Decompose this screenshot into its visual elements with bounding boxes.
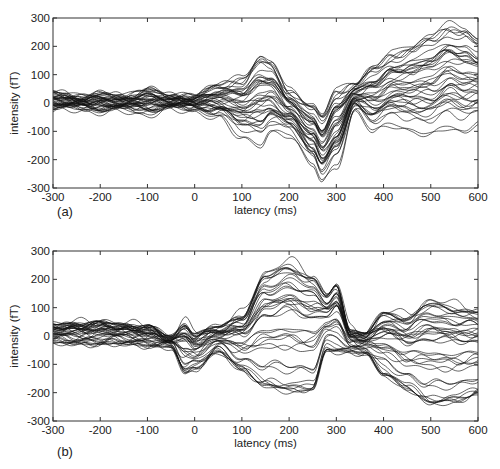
figure: -300-200-1000100200300400500600-300-200-…	[0, 0, 500, 469]
x-tick-label: 400	[374, 424, 393, 436]
x-tick-label: 500	[421, 191, 440, 203]
y-tick-label: 100	[31, 302, 50, 314]
y-tick-label: 300	[31, 245, 50, 257]
panel-label: (b)	[57, 444, 73, 459]
channel-trace	[53, 340, 478, 405]
y-tick-label: 200	[31, 273, 50, 285]
y-tick-label: -300	[27, 182, 50, 194]
channel-trace	[53, 104, 478, 174]
x-tick-label: 300	[327, 191, 346, 203]
x-tick-label: 500	[421, 424, 440, 436]
channel-trace	[53, 268, 478, 336]
x-tick-label: 200	[280, 191, 299, 203]
x-tick-label: 0	[191, 424, 197, 436]
x-tick-label: -200	[89, 191, 112, 203]
channel-trace	[53, 340, 478, 402]
y-tick-label: -100	[27, 125, 50, 137]
x-tick-label: -100	[136, 191, 159, 203]
x-tick-label: 600	[468, 191, 487, 203]
x-tick-label: 100	[232, 424, 251, 436]
x-tick-label: -100	[136, 424, 159, 436]
y-tick-label: 200	[31, 40, 50, 52]
x-tick-label: 400	[374, 191, 393, 203]
x-axis-label: latency (ms)	[234, 437, 297, 449]
x-tick-label: 0	[191, 191, 197, 203]
panel-label: (a)	[57, 204, 73, 219]
channel-trace	[53, 264, 478, 337]
y-axis-label: intensity (fT)	[8, 71, 20, 134]
x-tick-label: 100	[232, 191, 251, 203]
x-tick-label: -200	[89, 424, 112, 436]
x-axis-label: latency (ms)	[234, 204, 297, 216]
y-tick-label: 0	[44, 330, 50, 342]
y-tick-label: -200	[27, 387, 50, 399]
y-tick-label: -100	[27, 358, 50, 370]
panel-b: -300-200-1000100200300400500600-300-200-…	[8, 245, 488, 459]
channel-trace	[53, 340, 478, 405]
x-tick-label: 200	[280, 424, 299, 436]
waveform-traces	[53, 21, 478, 183]
y-tick-label: 300	[31, 12, 50, 24]
x-tick-label: 600	[468, 424, 487, 436]
y-tick-label: 100	[31, 69, 50, 81]
panel-a: -300-200-1000100200300400500600-300-200-…	[8, 12, 488, 219]
y-tick-label: 0	[44, 97, 50, 109]
x-tick-label: 300	[327, 424, 346, 436]
channel-trace	[53, 339, 478, 403]
waveform-traces	[53, 257, 478, 406]
y-tick-label: -200	[27, 154, 50, 166]
y-axis-label: intensity (fT)	[8, 304, 20, 367]
channel-trace	[53, 337, 478, 391]
y-tick-label: -300	[27, 415, 50, 427]
